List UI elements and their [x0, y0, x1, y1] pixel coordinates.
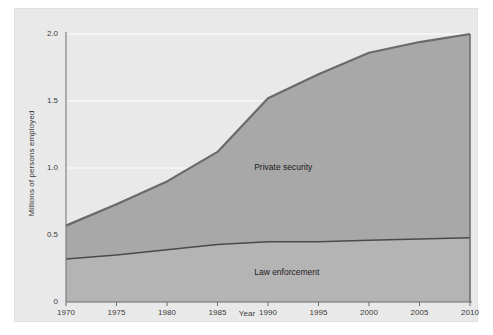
y-tick-label: 1.5 [34, 96, 58, 105]
y-tick-label: 2.0 [34, 29, 58, 38]
y-tick-label: 0 [34, 297, 58, 306]
x-tick-label: 1990 [253, 308, 283, 317]
chart-plot-area [15, 9, 479, 323]
figure: Millions of persons employed Year 00.51.… [0, 0, 493, 335]
x-tick-label: 2000 [354, 308, 384, 317]
x-tick-label: 1970 [51, 308, 81, 317]
x-tick-label: 1995 [304, 308, 334, 317]
y-tick-label: 1.0 [34, 163, 58, 172]
x-tick-label: 1980 [152, 308, 182, 317]
x-tick-label: 2010 [455, 308, 485, 317]
chart-panel: Millions of persons employed Year 00.51.… [14, 8, 478, 322]
series-annotation: Law enforcement [254, 267, 319, 277]
x-tick-label: 2005 [405, 308, 435, 317]
x-tick-marks [66, 302, 470, 306]
x-tick-label: 1975 [102, 308, 132, 317]
y-tick-label: 0.5 [34, 230, 58, 239]
x-tick-label: 1985 [203, 308, 233, 317]
series-annotation: Private security [254, 162, 312, 172]
